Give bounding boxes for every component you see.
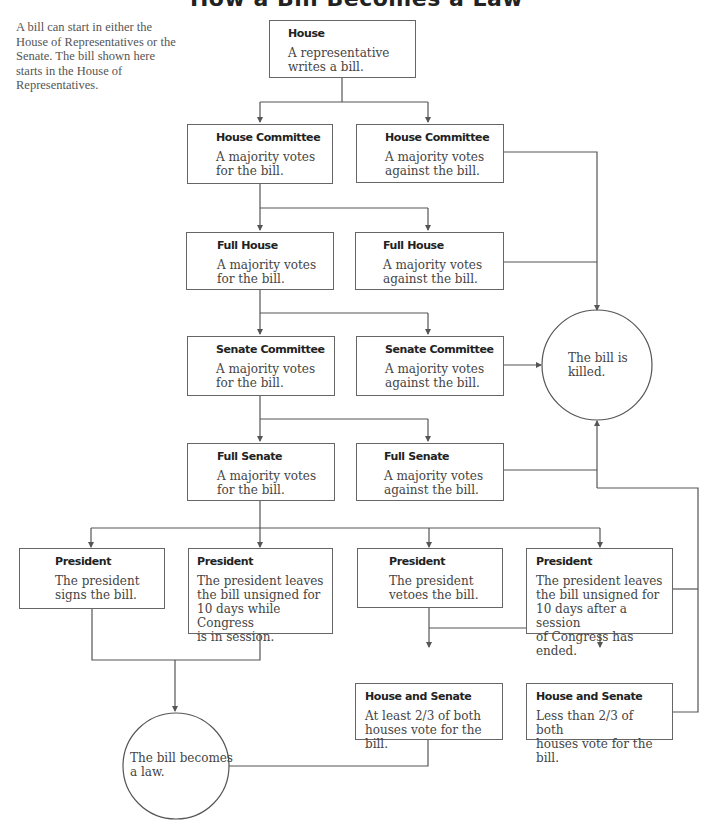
node-body: The president leaves the bill unsigned f… [536,574,664,658]
node-heading: House [288,27,407,40]
node-body: The president signs the bill. [55,574,156,602]
node-override-fail: House and Senate Less than 2/3 of both h… [526,683,673,740]
node-heading: Senate Committee [216,343,326,356]
node-full-senate-against: Full Senate A majority votes against the… [356,443,504,501]
node-president-signs: President The president signs the bill. [19,548,165,609]
node-heading: President [536,555,664,568]
node-president-vetoes: President The president vetoes the bill. [357,548,503,608]
node-heading: House and Senate [536,690,664,703]
node-body: A majority votes against the bill. [384,469,495,497]
node-full-senate-for: Full Senate A majority votes for the bil… [187,443,335,501]
node-body: A representative writes a bill. [288,46,407,74]
node-body: The president leaves the bill unsigned f… [197,574,324,644]
node-heading: House Committee [216,131,324,144]
node-heading: House Committee [385,131,495,144]
outcome-killed: The bill is killed. [568,351,628,379]
node-president-unsigned-in-session: President The president leaves the bill … [188,548,333,634]
node-president-unsigned-after-session: President The president leaves the bill … [526,548,673,634]
node-house-committee-against: House Committee A majority votes against… [356,124,504,183]
node-heading: Senate Committee [385,343,495,356]
node-body: A majority votes against the bill. [385,150,495,178]
node-heading: President [389,555,494,568]
node-heading: Full Senate [384,450,495,463]
node-house: House A representative writes a bill. [269,20,416,78]
node-body: A majority votes for the bill. [216,150,324,178]
node-body: The president vetoes the bill. [389,574,494,602]
node-body: A majority votes for the bill. [216,362,326,390]
node-body: Less than 2/3 of both houses vote for th… [536,709,664,765]
node-heading: President [197,555,324,568]
node-body: A majority votes for the bill. [217,469,326,497]
node-body: A majority votes against the bill. [383,258,495,286]
node-senate-committee-for: Senate Committee A majority votes for th… [187,336,335,396]
outcome-law: The bill becomes a law. [130,751,233,779]
node-senate-committee-against: Senate Committee A majority votes agains… [356,336,504,396]
node-heading: Full House [217,239,325,252]
node-body: A majority votes for the bill. [217,258,325,286]
node-heading: Full Senate [217,450,326,463]
node-full-house-against: Full House A majority votes against the … [355,232,504,290]
node-house-committee-for: House Committee A majority votes for the… [187,124,333,184]
node-heading: President [55,555,156,568]
node-body: A majority votes against the bill. [385,362,495,390]
node-heading: House and Senate [365,690,494,703]
node-override-success: House and Senate At least 2/3 of both ho… [355,683,503,740]
node-heading: Full House [383,239,495,252]
node-body: At least 2/3 of both houses vote for the… [365,709,494,751]
node-full-house-for: Full House A majority votes for the bill… [186,232,334,290]
